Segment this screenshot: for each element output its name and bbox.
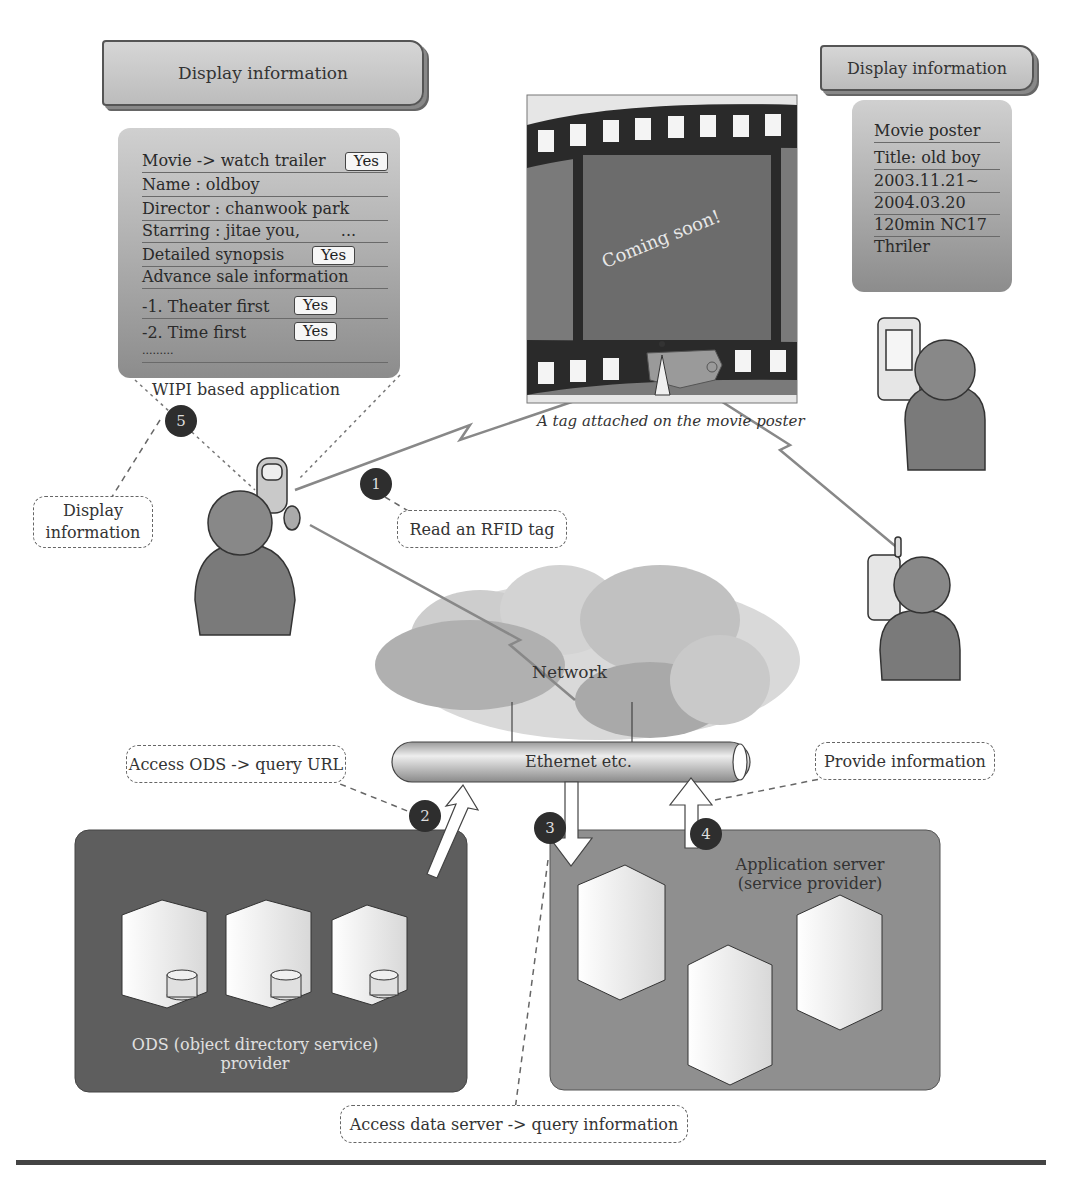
app-label-line2: (service provider) (720, 874, 900, 893)
left-display-notebook: Display information (102, 40, 424, 106)
ods-zone-label: ODS (object directory service) provider (120, 1035, 390, 1073)
left-notebook-title: Display information (178, 63, 348, 83)
bottom-rule (16, 1160, 1046, 1165)
step-2-badge: 2 (409, 800, 441, 832)
poster-row-title: Title: old boy (874, 147, 1000, 170)
wipi-caption: WIPI based application (152, 380, 340, 399)
poster-info-panel: Movie poster Title: old boy 2003.11.21~ … (852, 100, 1012, 292)
callout-provide-information: Provide information (815, 742, 995, 780)
theater-first-yes-button[interactable]: Yes (294, 296, 337, 315)
tag-caption: A tag attached on the movie poster (537, 412, 805, 430)
poster-row-runtime-rating: 120min NC17 (874, 214, 1000, 237)
step-4-badge: 4 (690, 818, 722, 850)
row-watch-trailer: Movie -> watch trailer (142, 151, 326, 170)
callout-display-information: Display information (33, 496, 153, 548)
callout-access-data-server: Access data server -> query information (340, 1105, 688, 1143)
row-name: Name : oldboy (142, 174, 388, 197)
app-zone-label: Application server (service provider) (720, 855, 900, 893)
network-label: Network (532, 662, 607, 682)
row-advance-sale: Advance sale information (142, 266, 388, 289)
poster-row-type: Movie poster (874, 120, 1000, 143)
step-3-badge: 3 (534, 812, 566, 844)
synopsis-yes-button[interactable]: Yes (312, 246, 355, 265)
ods-label-line1: ODS (object directory service) (120, 1035, 390, 1054)
poster-row-end-date: 2004.03.20 (874, 192, 1000, 215)
row-director: Director : chanwook park (142, 198, 388, 221)
app-label-line1: Application server (720, 855, 900, 874)
ods-label-line2: provider (120, 1054, 390, 1073)
network-cloud (375, 565, 800, 740)
poster-row-genre: Thriler (874, 236, 1000, 258)
wipi-app-panel: Movie -> watch trailer Yes Name : oldboy… (118, 128, 400, 378)
row-synopsis: Detailed synopsis (142, 245, 284, 264)
row-more: ......... (142, 340, 388, 363)
step-1-badge: 1 (360, 468, 392, 500)
user-left (195, 458, 300, 635)
right-notebook-title: Display information (847, 59, 1007, 78)
user-right-bottom (868, 537, 960, 680)
time-first-yes-button[interactable]: Yes (294, 322, 337, 341)
callout-access-ods: Access ODS -> query URL (126, 745, 346, 783)
ods-servers (122, 900, 407, 1008)
row-theater-first: -1. Theater first (142, 297, 269, 316)
right-display-notebook: Display information (820, 45, 1034, 91)
step-5-badge: 5 (165, 405, 197, 437)
user-right-top (878, 318, 985, 470)
ethernet-label: Ethernet etc. (525, 752, 632, 771)
watch-trailer-yes-button[interactable]: Yes (345, 152, 388, 171)
poster-row-start-date: 2003.11.21~ (874, 170, 1000, 193)
row-starring: Starring : jitae you, ... (142, 220, 388, 243)
callout-read-rfid: Read an RFID tag (397, 510, 567, 548)
